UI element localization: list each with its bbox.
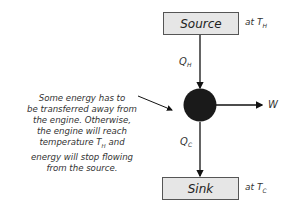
annotation-line: energy will stop flowing [2,152,162,163]
annotation-temp-suffix: and [106,137,125,147]
source-box: Source [163,12,239,35]
engine-circle [184,89,217,122]
q-cold-sub: C [188,141,192,148]
sink-temperature: at TC [245,182,267,194]
q-hot-label: QH [179,56,191,68]
sink-temp-sub: C [262,187,266,194]
work-symbol: W [268,99,278,110]
sink-temp-text: at T [245,182,262,192]
source-temp-text: at T [245,17,262,27]
source-temperature: at TH [245,17,267,29]
q-hot-symbol: Q [179,56,187,67]
annotation-line: Some energy has to [2,93,162,104]
q-cold-label: QC [180,136,192,148]
sink-box: Sink [162,177,239,200]
source-temp-sub: H [262,22,267,29]
work-label: W [268,99,278,110]
annotation-line: be transferred away from [2,104,162,115]
annotation-text: Some energy has to be transferred away f… [2,93,162,174]
annotation-line: temperature TH and [2,137,162,152]
annotation-line: from the source. [2,163,162,174]
sink-label: Sink [188,182,214,196]
q-hot-sub: H [187,61,192,68]
q-cold-symbol: Q [180,136,188,147]
annotation-temp-text: temperature T [39,137,101,147]
annotation-line: the engine. Otherwise, [2,115,162,126]
annotation-line: the engine will reach [2,126,162,137]
source-label: Source [180,17,221,31]
